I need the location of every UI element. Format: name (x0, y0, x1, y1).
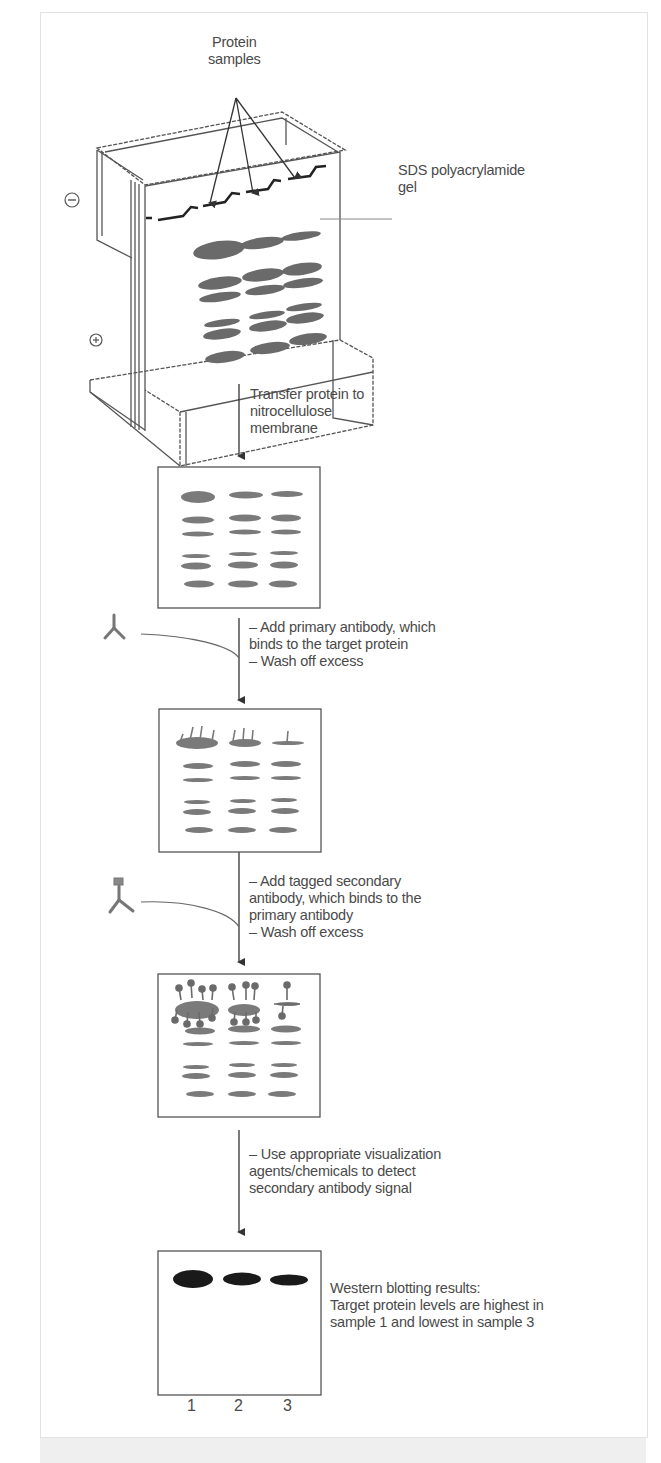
result-text: Western blotting results: Target protein… (330, 1280, 544, 1331)
result-line-3: sample 1 and lowest in sample 3 (330, 1314, 544, 1331)
positive-electrode-icon (90, 334, 102, 346)
gel-label: SDS polyacrylamide gel (398, 162, 525, 196)
step-transfer-line-1: Transfer protein to (250, 386, 364, 403)
membrane-secondary-bound (158, 974, 320, 1117)
step-transfer-line-3: membrane (250, 420, 364, 437)
step-transfer-line-2: nitrocellulose (250, 403, 364, 420)
step-secondary-line-1: – Add tagged secondary (249, 873, 421, 890)
western-blot-diagram (0, 0, 661, 1463)
primary-reagent-curve (141, 634, 239, 658)
step-visualize-text: – Use appropriate visualization agents/c… (249, 1146, 441, 1197)
lane-label-3: 3 (283, 1397, 292, 1415)
negative-electrode-icon (65, 193, 79, 207)
step-visualize-line-3: secondary antibody signal (249, 1180, 441, 1197)
lane-label-1: 1 (187, 1397, 196, 1415)
tagged-secondary-antibody-icon (110, 878, 133, 912)
gel-label-line-2: gel (398, 179, 525, 196)
step-secondary-line-4: – Wash off excess (249, 924, 421, 941)
step-primary-text: – Add primary antibody, which binds to t… (249, 619, 436, 670)
result-line-1: Western blotting results: (330, 1280, 544, 1297)
step-secondary-line-2: antibody, which binds to the (249, 890, 421, 907)
step-primary-line-2: binds to the target protein (249, 636, 436, 653)
protein-samples-label: Protein samples (208, 34, 261, 68)
sample-arrows (210, 98, 295, 203)
membrane-primary-bound (159, 709, 321, 852)
gel-wells (146, 166, 326, 220)
protein-samples-line-2: samples (208, 51, 261, 68)
primary-antibody-icon (105, 615, 124, 638)
step-visualize-line-1: – Use appropriate visualization (249, 1146, 441, 1163)
membrane-transferred (158, 467, 320, 608)
step-visualize-line-2: agents/chemicals to detect (249, 1163, 441, 1180)
step-secondary-line-3: primary antibody (249, 907, 421, 924)
step-secondary-text: – Add tagged secondary antibody, which b… (249, 873, 421, 941)
secondary-reagent-curve (141, 902, 239, 927)
step-transfer-text: Transfer protein to nitrocellulose membr… (250, 386, 364, 437)
step-primary-line-3: – Wash off excess (249, 653, 436, 670)
step-primary-line-1: – Add primary antibody, which (249, 619, 436, 636)
lane-label-2: 2 (234, 1397, 243, 1415)
result-line-2: Target protein levels are highest in (330, 1297, 544, 1314)
result-membrane (158, 1251, 321, 1395)
gel-label-line-1: SDS polyacrylamide (398, 162, 525, 179)
protein-samples-line-1: Protein (208, 34, 261, 51)
